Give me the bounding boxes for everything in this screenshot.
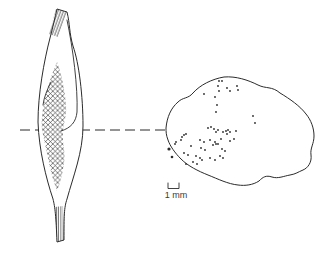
- scale-bar-label: 1 mm: [165, 190, 188, 200]
- spindle-dot: [225, 130, 227, 132]
- spindle-dot: [203, 93, 205, 95]
- spindle-dot: [236, 85, 238, 87]
- spindle-dot: [203, 141, 205, 143]
- spindle-dot: [199, 157, 201, 159]
- spindle-dot: [237, 89, 239, 91]
- scale-bar: 1 mm: [165, 183, 188, 200]
- spindle-dot: [183, 152, 185, 154]
- spindle-dot: [201, 159, 203, 161]
- spindle-dot: [187, 154, 189, 156]
- spindle-dot: [174, 143, 176, 145]
- spindle-dot: [213, 128, 215, 130]
- spindle-dot: [200, 147, 202, 149]
- spindle-dot: [221, 80, 223, 82]
- spindle-dot: [175, 141, 177, 143]
- spindle-dot: [215, 131, 217, 133]
- spindle-dot: [171, 156, 174, 159]
- spindle-dot: [222, 157, 224, 159]
- spindle-dot: [220, 138, 222, 140]
- spindle-dot: [185, 133, 187, 135]
- muscle-cross-section: [166, 77, 314, 186]
- spindle-dot: [235, 130, 237, 132]
- spindle-dot: [212, 144, 214, 146]
- scale-bar-bracket: [168, 183, 179, 189]
- spindle-dot: [216, 104, 218, 106]
- spindle-dot: [204, 149, 206, 151]
- spindle-dot: [181, 136, 183, 138]
- spindle-dot: [207, 127, 209, 129]
- spindle-dot: [226, 87, 228, 89]
- spindle-dot: [229, 140, 231, 142]
- anatomy-figure: 1 mm: [0, 0, 320, 255]
- muscle-lateral-view: [38, 9, 83, 242]
- spindle-dot: [210, 126, 212, 128]
- spindle-dot: [209, 157, 211, 159]
- spindle-dot: [209, 139, 211, 141]
- spindle-dot: [190, 145, 192, 147]
- spindle-dot: [233, 138, 235, 140]
- spindle-dot: [180, 139, 182, 141]
- spindle-dot: [167, 147, 170, 150]
- spindle-dot: [221, 148, 223, 150]
- spindle-dot: [229, 131, 231, 133]
- spindle-dot: [214, 96, 216, 98]
- spindle-dot: [192, 161, 194, 163]
- spindle-dot: [254, 122, 256, 124]
- spindle-dot: [217, 129, 219, 131]
- spindle-dot: [215, 111, 217, 113]
- spindle-dot: [219, 155, 221, 157]
- spindle-dot: [229, 90, 231, 92]
- spindle-dot: [224, 150, 226, 152]
- spindle-dot: [214, 141, 216, 143]
- spindle-dot: [227, 129, 229, 131]
- spindle-dot: [185, 163, 187, 165]
- cross-section-outline: [166, 77, 314, 186]
- spindle-dot: [214, 159, 216, 161]
- spindle-dot: [218, 90, 220, 92]
- spindle-dot: [199, 139, 201, 141]
- spindle-dot: [195, 155, 197, 157]
- spindle-dot: [196, 163, 198, 165]
- spindle-dot: [252, 115, 254, 117]
- spindle-dot: [226, 133, 228, 135]
- figure-canvas: 1 mm: [0, 0, 320, 255]
- spindle-dot: [218, 80, 220, 82]
- spindle-dot: [217, 85, 219, 87]
- spindle-dot: [183, 134, 185, 136]
- spindle-dot: [217, 143, 219, 145]
- spindle-dot: [222, 131, 224, 133]
- spindle-dot: [215, 143, 217, 145]
